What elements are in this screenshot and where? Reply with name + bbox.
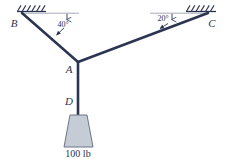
suspended-block — [64, 115, 93, 147]
cable-ca — [78, 13, 208, 62]
label-angle-left: 40° — [57, 20, 68, 29]
angle-left-leader — [57, 28, 65, 35]
diagram-canvas: B C A D 40° 20° 100 lb — [0, 0, 234, 159]
support-b — [17, 5, 46, 11]
statics-cable-diagram: B C A D 40° 20° 100 lb — [0, 0, 234, 159]
support-c-hatching — [187, 5, 215, 11]
label-angle-right: 20° — [157, 14, 168, 23]
label-point-a: A — [65, 63, 73, 75]
label-point-b: B — [11, 17, 18, 29]
label-load: 100 lb — [65, 148, 90, 159]
label-point-c: C — [208, 17, 216, 29]
label-point-d: D — [64, 95, 73, 107]
cable-ba — [22, 13, 78, 62]
support-b-hatching — [18, 5, 46, 11]
support-c — [186, 5, 216, 11]
